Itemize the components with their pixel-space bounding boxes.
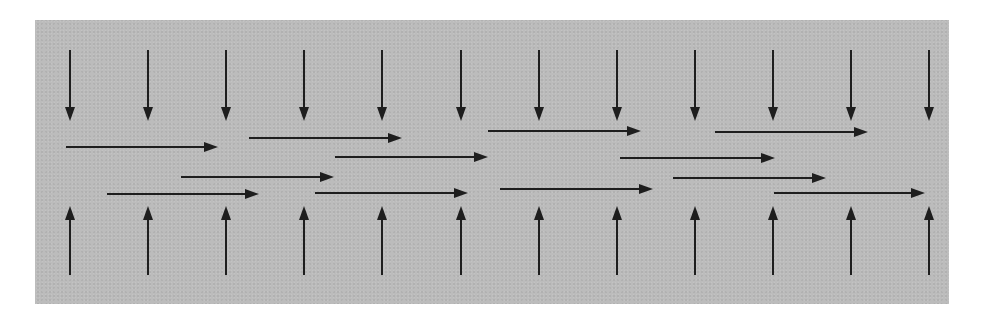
right-arrow: [774, 188, 925, 198]
arrowhead-icon: [474, 152, 488, 162]
down-arrow: [690, 50, 700, 121]
arrowhead-icon: [143, 206, 153, 220]
arrowhead-icon: [377, 107, 387, 121]
arrowhead-icon: [204, 142, 218, 152]
up-arrow: [768, 206, 778, 275]
right-arrow: [715, 127, 868, 137]
arrowhead-icon: [612, 107, 622, 121]
arrowhead-icon: [65, 206, 75, 220]
right-arrow: [107, 189, 259, 199]
up-arrow: [143, 206, 153, 275]
arrowhead-icon: [812, 173, 826, 183]
up-arrow: [534, 206, 544, 275]
right-arrow: [181, 172, 334, 182]
arrowhead-icon: [924, 206, 934, 220]
arrowhead-icon: [456, 107, 466, 121]
up-arrow: [377, 206, 387, 275]
arrowhead-icon: [456, 206, 466, 220]
down-arrow: [534, 50, 544, 121]
down-arrow: [456, 50, 466, 121]
arrowhead-icon: [627, 126, 641, 136]
up-arrow-row: [65, 206, 934, 275]
down-arrow: [377, 50, 387, 121]
arrowhead-icon: [454, 188, 468, 198]
right-arrow: [500, 184, 653, 194]
down-arrow-row: [65, 50, 934, 121]
down-arrow: [846, 50, 856, 121]
right-arrow: [249, 133, 402, 143]
arrowhead-icon: [854, 127, 868, 137]
down-arrow: [768, 50, 778, 121]
arrowhead-icon: [377, 206, 387, 220]
arrowhead-icon: [846, 206, 856, 220]
arrowhead-icon: [143, 107, 153, 121]
down-arrow: [612, 50, 622, 121]
right-arrow: [335, 152, 488, 162]
right-arrow: [620, 153, 775, 163]
down-arrow: [143, 50, 153, 121]
down-arrow: [924, 50, 934, 121]
right-arrow: [315, 188, 468, 198]
arrowhead-icon: [320, 172, 334, 182]
arrowhead-icon: [388, 133, 402, 143]
down-arrow: [65, 50, 75, 121]
down-arrow: [221, 50, 231, 121]
right-arrow: [673, 173, 826, 183]
arrowhead-icon: [690, 206, 700, 220]
arrowhead-icon: [846, 107, 856, 121]
arrowhead-icon: [924, 107, 934, 121]
arrowhead-icon: [65, 107, 75, 121]
horizontal-arrow-band: [66, 126, 925, 199]
up-arrow: [690, 206, 700, 275]
arrow-field: [0, 0, 981, 317]
up-arrow: [456, 206, 466, 275]
arrowhead-icon: [612, 206, 622, 220]
up-arrow: [221, 206, 231, 275]
arrowhead-icon: [534, 107, 544, 121]
diagram-canvas: [0, 0, 981, 317]
up-arrow: [612, 206, 622, 275]
arrowhead-icon: [761, 153, 775, 163]
arrowhead-icon: [221, 107, 231, 121]
up-arrow: [65, 206, 75, 275]
arrowhead-icon: [768, 107, 778, 121]
up-arrow: [924, 206, 934, 275]
right-arrow: [488, 126, 641, 136]
arrowhead-icon: [639, 184, 653, 194]
arrowhead-icon: [299, 206, 309, 220]
arrowhead-icon: [911, 188, 925, 198]
up-arrow: [846, 206, 856, 275]
up-arrow: [299, 206, 309, 275]
right-arrow: [66, 142, 218, 152]
down-arrow: [299, 50, 309, 121]
arrowhead-icon: [221, 206, 231, 220]
arrowhead-icon: [768, 206, 778, 220]
arrowhead-icon: [299, 107, 309, 121]
arrowhead-icon: [534, 206, 544, 220]
arrowhead-icon: [245, 189, 259, 199]
arrowhead-icon: [690, 107, 700, 121]
